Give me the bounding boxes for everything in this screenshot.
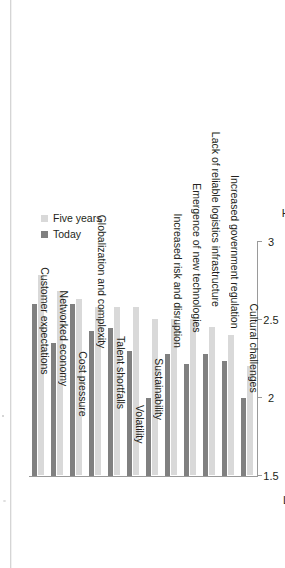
legend-swatch-today (41, 231, 48, 238)
category-label: Customer expectations (38, 267, 50, 374)
bar-five-years (133, 307, 139, 475)
chart-stage: 1.522.53 LowHigh Customer expectationsNe… (29, 34, 257, 534)
chart-page: 1.522.53 LowHigh Customer expectationsNe… (0, 0, 285, 568)
bar-today (31, 304, 37, 476)
legend-item: Five years (41, 212, 101, 224)
scan-speck (3, 500, 6, 502)
category-label: Volatility (133, 405, 145, 444)
legend-label: Today (53, 228, 81, 240)
page-left-rule-soft (11, 0, 12, 568)
category-label: Cultural challenges (247, 303, 259, 392)
bar-five-years (190, 319, 196, 475)
category-label: Talent shortfalls (114, 336, 126, 409)
bar-five-years (209, 327, 215, 475)
category-label: Increased risk and disruption (171, 214, 183, 348)
value-axis-end-label-high: High (281, 207, 285, 219)
category-label: Lack of reliable logistics infrastructur… (209, 132, 221, 307)
legend-item: Today (41, 228, 81, 240)
category-label: Sustainability (152, 358, 164, 420)
bar-today (202, 354, 208, 476)
bar-today (240, 398, 246, 476)
category-label: Globalization and complexity (95, 215, 107, 349)
legend-label: Five years (53, 212, 101, 224)
bar-today (183, 364, 189, 476)
category-label: Networked economy (57, 291, 69, 387)
bar-today (107, 328, 113, 476)
category-label: Increased government regulation (228, 175, 240, 329)
value-axis-end-label-low: Low (282, 494, 285, 506)
value-axis-line (29, 476, 258, 477)
scan-speck (2, 415, 4, 417)
legend-swatch-five (41, 215, 48, 222)
bar-five-years (228, 335, 234, 475)
category-label: Cost pressure (76, 351, 88, 416)
category-label: Emergence of new technologies (190, 183, 202, 332)
bar-today (221, 361, 227, 476)
